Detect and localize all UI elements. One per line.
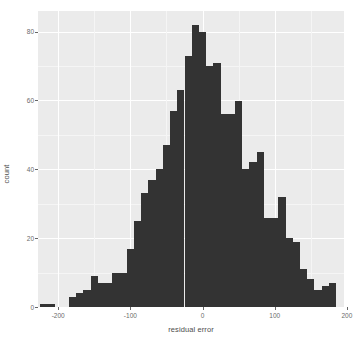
histogram-figure: count residual error 020406080 -200-1000… [0, 0, 358, 348]
x-tick-label: 200 [327, 312, 358, 319]
x-tick-mark [130, 307, 131, 310]
x-tick-mark [275, 307, 276, 310]
histogram-bar [249, 162, 256, 307]
y-tick-label: 80 [12, 28, 34, 35]
y-tick-label: 20 [12, 235, 34, 242]
x-tick-label: -100 [110, 312, 150, 319]
histogram-bar [112, 273, 119, 307]
histogram-bar [221, 114, 228, 307]
x-tick-mark [58, 307, 59, 310]
y-axis: 020406080 [0, 0, 34, 348]
histogram-bar [91, 276, 98, 307]
x-tick-label: 0 [183, 312, 223, 319]
histogram-bar [242, 169, 249, 307]
histogram-bar [199, 32, 206, 307]
x-tick-mark [347, 307, 348, 310]
x-tick-label: 100 [255, 312, 295, 319]
gridline-major-vertical [58, 11, 59, 307]
histogram-bar [69, 297, 76, 307]
histogram-bar [271, 218, 278, 307]
histogram-bar [278, 197, 285, 307]
histogram-bar [156, 169, 163, 307]
histogram-bar [105, 283, 112, 307]
gridline-minor-vertical [311, 11, 312, 307]
histogram-bar [192, 25, 199, 307]
histogram-bar [293, 242, 300, 307]
histogram-bar [98, 283, 105, 307]
histogram-bar [307, 279, 314, 307]
histogram-bar [76, 293, 83, 307]
histogram-bar [185, 56, 192, 307]
histogram-bar [264, 218, 271, 307]
histogram-bar [206, 66, 213, 307]
histogram-bar [257, 152, 264, 307]
histogram-bar [235, 101, 242, 308]
histogram-bar [120, 273, 127, 307]
histogram-bar [286, 238, 293, 307]
gridline-minor-vertical [94, 11, 95, 307]
histogram-bar [322, 286, 329, 307]
histogram-bar [83, 290, 90, 307]
plot-panel [38, 11, 344, 307]
y-tick-label: 60 [12, 97, 34, 104]
histogram-bar [300, 269, 307, 307]
histogram-bar [329, 283, 336, 307]
histogram-bar [314, 290, 321, 307]
histogram-bar [127, 249, 134, 308]
x-tick-mark [203, 307, 204, 310]
histogram-bar [170, 111, 177, 307]
histogram-bar [228, 114, 235, 307]
histogram-bar [141, 193, 148, 307]
histogram-bar [134, 221, 141, 307]
histogram-bar [148, 180, 155, 307]
y-tick-label: 40 [12, 166, 34, 173]
histogram-bar [163, 145, 170, 307]
x-tick-label: -200 [38, 312, 78, 319]
x-axis: -200-1000100200 [0, 307, 358, 327]
histogram-bar [177, 90, 184, 307]
histogram-bar [213, 63, 220, 307]
